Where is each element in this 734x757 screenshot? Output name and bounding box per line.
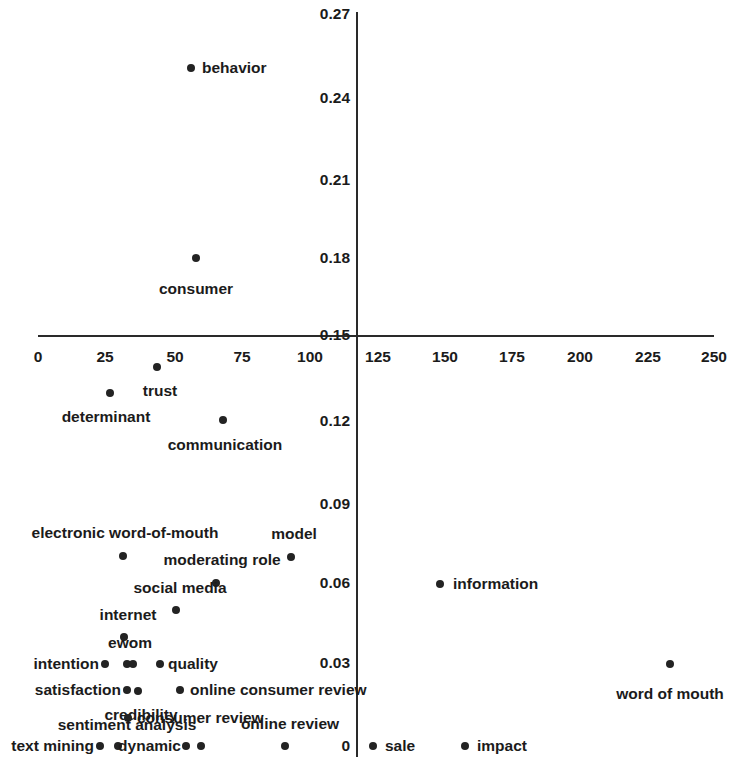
data-point-label: dynamic xyxy=(118,738,181,754)
data-point-marker xyxy=(219,416,227,424)
data-point-label: ewom xyxy=(108,635,152,651)
data-point-marker xyxy=(153,363,161,371)
data-point-label: impact xyxy=(477,738,527,754)
x-tick-label: 225 xyxy=(635,348,661,366)
data-point-label: information xyxy=(453,576,538,592)
x-axis-line xyxy=(38,335,714,337)
data-point-label: behavior xyxy=(202,60,267,76)
x-tick-label: 100 xyxy=(297,348,323,366)
data-point-label: trust xyxy=(143,383,177,399)
data-point-label: electronic word-of-mouth xyxy=(32,525,219,541)
data-point-marker xyxy=(666,660,674,668)
data-point-marker xyxy=(187,64,195,72)
data-point-marker xyxy=(134,687,142,695)
data-point-marker xyxy=(461,742,469,750)
data-point-marker xyxy=(287,553,295,561)
data-point-label: word of mouth xyxy=(616,686,724,702)
y-tick-label: 0.12 xyxy=(320,412,350,430)
data-point-label: satisfaction xyxy=(35,682,121,698)
data-point-marker xyxy=(156,660,164,668)
data-point-marker xyxy=(123,686,131,694)
data-point-marker xyxy=(172,606,180,614)
data-point-label: intention xyxy=(34,656,99,672)
data-point-marker xyxy=(281,742,289,750)
data-point-marker xyxy=(192,254,200,262)
y-tick-label: 0.18 xyxy=(320,249,350,267)
data-point-marker xyxy=(197,742,205,750)
data-point-label: online consumer review xyxy=(190,682,367,698)
y-tick-label: 0.15 xyxy=(320,326,350,344)
data-point-label: online review xyxy=(241,716,339,732)
x-tick-label: 0 xyxy=(34,348,43,366)
data-point-marker xyxy=(96,742,104,750)
scatter-plot-figure: 0255075100125150175200225250 0.270.240.2… xyxy=(0,0,734,757)
y-tick-label: 0.09 xyxy=(320,495,350,513)
data-point-label: determinant xyxy=(62,409,151,425)
data-point-label: sentiment analysis xyxy=(58,717,197,733)
data-point-label: internet xyxy=(100,607,157,623)
data-point-label: moderating role xyxy=(163,552,280,568)
data-point-label: consumer xyxy=(159,281,233,297)
y-tick-label: 0 xyxy=(341,737,350,755)
y-tick-label: 0.27 xyxy=(320,5,350,23)
x-tick-label: 200 xyxy=(567,348,593,366)
data-point-marker xyxy=(119,552,127,560)
x-tick-label: 150 xyxy=(432,348,458,366)
y-tick-label: 0.06 xyxy=(320,574,350,592)
data-point-marker xyxy=(106,389,114,397)
x-tick-label: 250 xyxy=(701,348,727,366)
data-point-label: text mining xyxy=(11,738,94,754)
data-point-marker xyxy=(436,580,444,588)
data-point-label: quality xyxy=(168,656,218,672)
y-axis-line xyxy=(356,12,358,757)
x-tick-label: 25 xyxy=(96,348,113,366)
y-tick-label: 0.24 xyxy=(320,89,350,107)
data-point-marker xyxy=(129,660,137,668)
y-tick-label: 0.03 xyxy=(320,654,350,672)
data-point-marker xyxy=(176,686,184,694)
x-tick-label: 125 xyxy=(365,348,391,366)
data-point-label: social media xyxy=(133,580,226,596)
data-point-label: sale xyxy=(385,738,415,754)
data-point-marker xyxy=(182,742,190,750)
x-tick-label: 50 xyxy=(166,348,183,366)
data-point-marker xyxy=(101,660,109,668)
x-tick-label: 75 xyxy=(233,348,250,366)
y-tick-label: 0.21 xyxy=(320,171,350,189)
x-tick-label: 175 xyxy=(499,348,525,366)
data-point-label: model xyxy=(271,526,317,542)
data-point-label: communication xyxy=(168,437,283,453)
data-point-marker xyxy=(369,742,377,750)
